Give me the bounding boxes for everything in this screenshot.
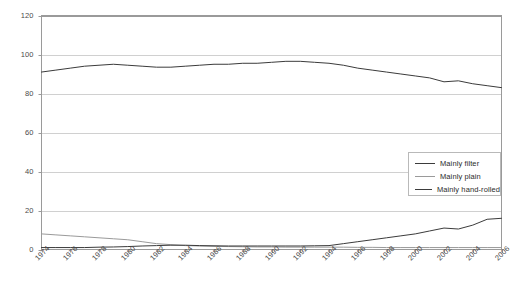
line-chart: 020406080100120 197419761978198019821984…: [0, 0, 519, 294]
legend-item-0: Mainly filter: [409, 157, 500, 170]
plot-area-border: [42, 16, 502, 250]
legend-item-label: Mainly filter: [440, 159, 479, 168]
legend-item-label: Mainly hand-rolled: [437, 185, 500, 194]
legend-item-2: Mainly hand-rolled: [409, 183, 500, 196]
y-tick-label: 20: [12, 206, 34, 215]
y-tick-label: 80: [12, 89, 34, 98]
y-tick-label: 120: [12, 11, 34, 20]
chart-legend: Mainly filterMainly plainMainly hand-rol…: [408, 152, 501, 196]
y-tick-label: 0: [12, 245, 34, 254]
legend-line-swatch-icon: [415, 163, 435, 164]
legend-item-1: Mainly plain: [409, 170, 500, 183]
legend-item-label: Mainly plain: [440, 172, 481, 181]
series-line-0: [42, 61, 502, 87]
y-tick-label: 40: [12, 167, 34, 176]
y-tick-label: 60: [12, 128, 34, 137]
y-tick-label: 100: [12, 50, 34, 59]
legend-line-swatch-icon: [415, 189, 432, 190]
series-line-2: [42, 218, 502, 247]
legend-line-swatch-icon: [415, 176, 435, 177]
x-axis-ticks: [39, 17, 503, 253]
